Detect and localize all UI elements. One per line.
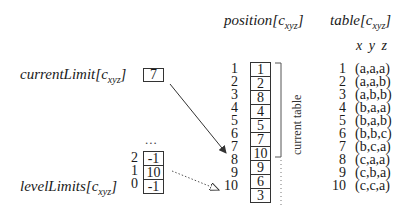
current-limit-arrow — [170, 84, 226, 153]
diagram-connectors — [0, 0, 413, 216]
current-table-bracket — [275, 63, 281, 157]
level-limit-arrow — [172, 171, 219, 190]
